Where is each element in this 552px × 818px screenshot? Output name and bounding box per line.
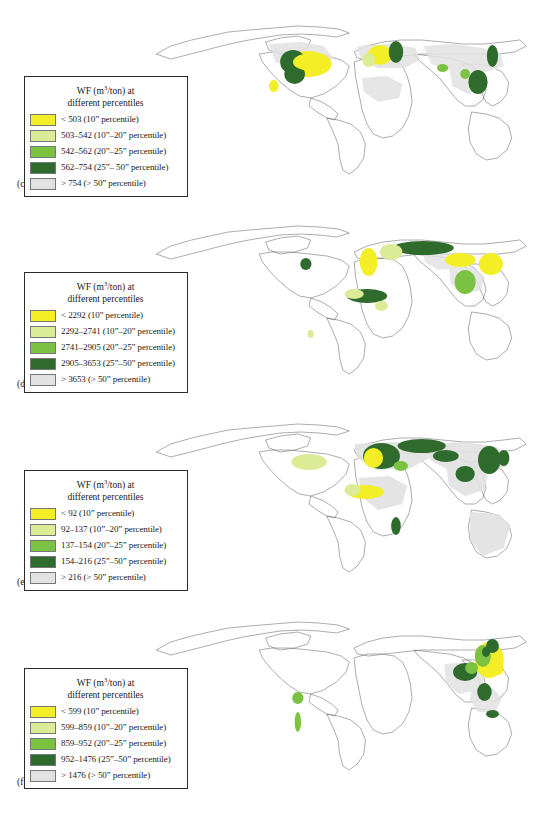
- legend-label-class4: 154–216 (25ˮ–50ˮ percentile): [61, 556, 166, 567]
- legend-title-line2: different percentiles: [67, 492, 143, 502]
- legend-swatch-class3: [30, 738, 56, 750]
- legend-title: WF (m3/ton) at different percentiles: [30, 674, 181, 701]
- legend-row: 859–952 (20ˮ–25ˮ percentile): [30, 736, 181, 751]
- legend-label-class2: 599–859 (10ˮ–20ˮ percentile): [61, 722, 166, 733]
- legend-title-part2: /ton) at: [107, 86, 134, 96]
- legend-swatch-class4: [30, 556, 56, 568]
- legend-label-class4: 562–754 (25ˮ– 50ˮ percentile): [61, 162, 168, 173]
- legend-title-part2: /ton) at: [107, 282, 134, 292]
- legend-label-class2: 92–137 (10ˮ–20ˮ percentile): [61, 524, 162, 535]
- legend-potatoes: WF (m3/ton) at different percentiles < 9…: [24, 470, 188, 591]
- legend-swatch-class5: [30, 770, 56, 782]
- legend-swatch-class3: [30, 540, 56, 552]
- legend-row: 154–216 (25ˮ–50ˮ percentile): [30, 554, 181, 569]
- legend-row: 2905–3653 (25ˮ–50ˮ percentile): [30, 356, 181, 371]
- legend-label-class5: > 3653 (> 50ˮ percentile): [61, 374, 150, 385]
- coastline-layer: [156, 226, 526, 374]
- legend-row: > 3653 (> 50ˮ percentile): [30, 372, 181, 387]
- legend-swatch-class3: [30, 342, 56, 354]
- legend-row: > 1476 (> 50ˮ percentile): [30, 768, 181, 783]
- legend-rows: < 2292 (10ˮ percentile) 2292–2741 (10ˮ–2…: [30, 308, 181, 387]
- legend-title-part1: WF (m: [77, 480, 104, 490]
- legend-label-class5: > 1476 (> 50ˮ percentile): [61, 770, 150, 781]
- legend-label-class1: < 599 (10ˮ percentile): [61, 706, 139, 717]
- legend-row: 2741–2905 (20ˮ–25ˮ percentile): [30, 340, 181, 355]
- legend-swatch-class3: [30, 146, 56, 158]
- figure-panel-potatoes: WF (m3/ton) at different percentiles < 9…: [0, 400, 552, 600]
- legend-row: 952–1476 (25ˮ–50ˮ percentile): [30, 752, 181, 767]
- legend-swatch-class5: [30, 374, 56, 386]
- legend-title-part2: /ton) at: [107, 480, 134, 490]
- legend-label-class3: 859–952 (20ˮ–25ˮ percentile): [61, 738, 166, 749]
- legend-rows: < 503 (10ˮ percentile) 503–542 (10ˮ–20ˮ …: [30, 112, 181, 191]
- legend-swatch-class5: [30, 572, 56, 584]
- legend-swatch-class1: [30, 114, 56, 126]
- legend-label-class3: 542–562 (20ˮ–25ˮ percentile): [61, 146, 166, 157]
- legend-swatch-class4: [30, 162, 56, 174]
- legend-label-class4: 952–1476 (25ˮ–50ˮ percentile): [61, 754, 171, 765]
- legend-swatch-class2: [30, 722, 56, 734]
- legend-swatch-class4: [30, 754, 56, 766]
- legend-label-class3: 137–154 (20ˮ–25ˮ percentile): [61, 540, 166, 551]
- legend-row: 503–542 (10ˮ–20ˮ percentile): [30, 128, 181, 143]
- figure-panel-millet: WF (m3/ton) at different percentiles < 2…: [0, 202, 552, 402]
- legend-label-class5: > 754 (> 50ˮ percentile): [61, 178, 146, 189]
- legend-title-line2: different percentiles: [67, 294, 143, 304]
- legend-row: 137–154 (20ˮ–25ˮ percentile): [30, 538, 181, 553]
- legend-row: > 754 (> 50ˮ percentile): [30, 176, 181, 191]
- legend-label-class3: 2741–2905 (20ˮ–25ˮ percentile): [61, 342, 175, 353]
- legend-row: 599–859 (10ˮ–20ˮ percentile): [30, 720, 181, 735]
- legend-swatch-class5: [30, 178, 56, 190]
- legend-title: WF (m3/ton) at different percentiles: [30, 476, 181, 503]
- legend-label-class2: 503–542 (10ˮ–20ˮ percentile): [61, 130, 166, 141]
- legend-title-part2: /ton) at: [107, 678, 134, 688]
- legend-swatch-class2: [30, 524, 56, 536]
- legend-title-line2: different percentiles: [67, 690, 143, 700]
- legend-rice: WF (m3/ton) at different percentiles < 5…: [24, 668, 188, 789]
- legend-row: < 2292 (10ˮ percentile): [30, 308, 181, 323]
- legend-swatch-class1: [30, 706, 56, 718]
- legend-maize: WF (m3/ton) at different percentiles < 5…: [24, 76, 188, 197]
- legend-row: 92–137 (10ˮ–20ˮ percentile): [30, 522, 181, 537]
- legend-millet: WF (m3/ton) at different percentiles < 2…: [24, 272, 188, 393]
- legend-title-part1: WF (m: [77, 282, 104, 292]
- legend-label-class5: > 216 (> 50ˮ percentile): [61, 572, 146, 583]
- legend-title: WF (m3/ton) at different percentiles: [30, 278, 181, 305]
- legend-row: 2292–2741 (10ˮ–20ˮ percentile): [30, 324, 181, 339]
- legend-label-class4: 2905–3653 (25ˮ–50ˮ percentile): [61, 358, 175, 369]
- figure-panel-maize: WF (m3/ton) at different percentiles < 5…: [0, 2, 552, 202]
- legend-title-part1: WF (m: [77, 678, 104, 688]
- figure-panel-rice: WF (m3/ton) at different percentiles < 5…: [0, 598, 552, 818]
- legend-swatch-class2: [30, 130, 56, 142]
- legend-title-part1: WF (m: [77, 86, 104, 96]
- legend-rows: < 599 (10ˮ percentile) 599–859 (10ˮ–20ˮ …: [30, 704, 181, 783]
- legend-row: < 599 (10ˮ percentile): [30, 704, 181, 719]
- legend-row: < 92 (10ˮ percentile): [30, 506, 181, 521]
- legend-label-class1: < 503 (10ˮ percentile): [61, 114, 139, 125]
- legend-title-line2: different percentiles: [67, 98, 143, 108]
- legend-swatch-class4: [30, 358, 56, 370]
- legend-row: > 216 (> 50ˮ percentile): [30, 570, 181, 585]
- legend-row: 542–562 (20ˮ–25ˮ percentile): [30, 144, 181, 159]
- legend-label-class1: < 2292 (10ˮ percentile): [61, 310, 143, 321]
- legend-rows: < 92 (10ˮ percentile) 92–137 (10ˮ–20ˮ pe…: [30, 506, 181, 585]
- legend-row: 562–754 (25ˮ– 50ˮ percentile): [30, 160, 181, 175]
- legend-title: WF (m3/ton) at different percentiles: [30, 82, 181, 109]
- legend-swatch-class1: [30, 310, 56, 322]
- legend-label-class2: 2292–2741 (10ˮ–20ˮ percentile): [61, 326, 175, 337]
- legend-swatch-class1: [30, 508, 56, 520]
- legend-swatch-class2: [30, 326, 56, 338]
- legend-label-class1: < 92 (10ˮ percentile): [61, 508, 134, 519]
- legend-row: < 503 (10ˮ percentile): [30, 112, 181, 127]
